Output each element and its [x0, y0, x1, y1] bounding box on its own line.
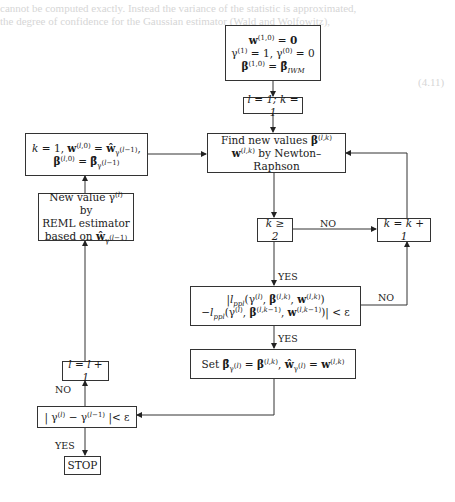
init-line-w: w(1,0) = 0 [249, 34, 297, 47]
reml-line-1: New value γ(l) by [42, 191, 130, 217]
k-check-no-label: NO [320, 218, 336, 229]
set-estimates-box: Set β̂γ(l) = β(l,k), ŵγ(l) = w(l,k) [190, 349, 356, 379]
k-check-box: k ≥ 2 [257, 218, 293, 242]
gamma-check-yes-label: YES [55, 440, 75, 451]
set-counters-box: l = 1; k = 1 [243, 97, 303, 114]
set-estimates-text: Set β̂γ(l) = β(l,k), ŵγ(l) = w(l,k) [202, 358, 345, 371]
stop-text: STOP [68, 459, 98, 472]
k-check-text: k ≥ 2 [261, 217, 289, 243]
edge-set-to-gammacheck [137, 378, 274, 415]
stop-box: STOP [64, 456, 101, 475]
convergence-yes-label: YES [278, 333, 298, 344]
k-check-yes-label: YES [278, 271, 298, 282]
newton-line-2: w(l,k) by Newton–Raphson [211, 147, 342, 173]
gamma-check-no-label: NO [55, 384, 71, 395]
reml-line-2: REML estimator [42, 217, 130, 230]
convergence-no-label: NO [378, 292, 394, 303]
convergence-line-1: |lppl(γ(l), β(l,k), w(l,k)) [226, 293, 324, 306]
convergence-check-box: |lppl(γ(l), β(l,k), w(l,k)) −lppl(γ(l), … [190, 286, 361, 326]
init-box: w(1,0) = 0 γ(1) = 1, γ(0) = 0 β(1,0) = β… [225, 25, 321, 81]
l-increment-text: l = l + 1 [66, 358, 105, 384]
init-line-gamma: γ(1) = 1, γ(0) = 0 [231, 47, 314, 60]
newton-line-1: Find new values β(l,k) [221, 134, 332, 147]
convergence-line-2: −lppl(γ(l), β(l,k−1), w(l,k−1))| < ε [201, 306, 349, 319]
gamma-check-text: | γ(l) − γ(l−1) |< ε [44, 411, 129, 424]
edge-kincrement-to-newton [346, 153, 407, 218]
reset-line-1: k = 1, w(l,0) = ŵγ(l−1), [32, 142, 141, 155]
reml-box: New value γ(l) by REML estimator based o… [38, 193, 134, 241]
init-line-beta: β(1,0) = β̂IWM [241, 60, 304, 73]
reset-box: k = 1, w(l,0) = ŵγ(l−1), β(l,0) = β̂γ(l−… [25, 133, 148, 176]
reml-line-3: based on ŵγ(l−1) [45, 230, 127, 243]
gamma-check-box: | γ(l) − γ(l−1) |< ε [37, 406, 137, 428]
k-increment-box: k = k + 1 [377, 218, 431, 242]
k-increment-text: k = k + 1 [381, 217, 427, 243]
set-counters-text: l = 1; k = 1 [247, 93, 299, 119]
reset-line-2: β(l,0) = β̂γ(l−1) [53, 155, 119, 168]
l-increment-box: l = l + 1 [62, 361, 109, 381]
newton-raphson-box: Find new values β(l,k) w(l,k) by Newton–… [207, 133, 346, 173]
